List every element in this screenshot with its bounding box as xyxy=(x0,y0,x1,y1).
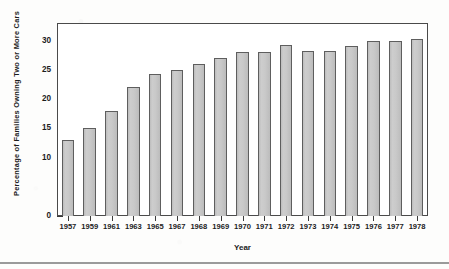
bar xyxy=(171,70,184,216)
bar xyxy=(127,87,140,216)
x-axis-tick xyxy=(308,216,309,221)
y-axis-tick-label: 10 xyxy=(25,154,51,162)
bar xyxy=(411,39,424,216)
bar xyxy=(345,46,358,216)
x-axis-tick xyxy=(373,216,374,221)
y-axis-tick-label: 30 xyxy=(25,37,51,45)
x-axis-tick xyxy=(221,216,222,221)
y-axis-tick-label: 20 xyxy=(25,95,51,103)
y-axis-tick-label: 25 xyxy=(25,66,51,74)
bar xyxy=(193,64,206,216)
x-axis-tick xyxy=(264,216,265,221)
bar xyxy=(389,41,402,216)
bar xyxy=(258,52,271,216)
x-axis-tick xyxy=(243,216,244,221)
x-axis-tick xyxy=(112,216,113,221)
y-axis-tick-label: 15 xyxy=(25,124,51,132)
x-axis-tick xyxy=(352,216,353,221)
x-axis-tick xyxy=(395,216,396,221)
x-axis-tick xyxy=(417,216,418,221)
bar xyxy=(83,128,96,216)
y-axis-tick xyxy=(57,216,63,217)
bar xyxy=(324,51,337,216)
x-axis-tick xyxy=(330,216,331,221)
bar xyxy=(62,140,75,216)
x-axis-title: Year xyxy=(57,243,428,252)
bar xyxy=(236,52,249,216)
x-axis-tick xyxy=(199,216,200,221)
bar xyxy=(280,45,293,216)
bar-chart-figure: Percentage of Families Owning Two or Mor… xyxy=(0,0,449,269)
y-axis-title: Percentage of Families Owning Two or Mor… xyxy=(12,0,21,264)
x-axis-tick xyxy=(177,216,178,221)
bar xyxy=(149,74,162,216)
bar xyxy=(105,111,118,216)
page-bottom-edge xyxy=(0,262,449,264)
x-axis-tick xyxy=(155,216,156,221)
x-axis-tick xyxy=(68,216,69,221)
x-axis-tick xyxy=(133,216,134,221)
x-axis-tick xyxy=(286,216,287,221)
bar xyxy=(214,58,227,216)
bar xyxy=(302,51,315,216)
x-axis-tick-label: 1978 xyxy=(402,223,432,231)
x-axis-tick xyxy=(90,216,91,221)
bar xyxy=(367,41,380,216)
y-axis-tick-label: 0 xyxy=(25,212,51,220)
